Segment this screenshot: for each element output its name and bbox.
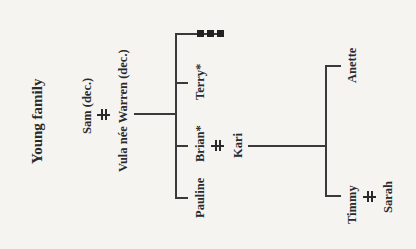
child-tick-pauline (175, 197, 188, 199)
person-timmy: Timmy (346, 185, 359, 224)
child-tick-timmy (325, 195, 341, 197)
child-tick-terry (175, 82, 188, 84)
sibling-bar-gen1 (175, 33, 177, 198)
marriage-symbol-sam-vula (97, 109, 111, 121)
child-tick-anette (325, 65, 341, 67)
person-anette: Anette (346, 48, 359, 83)
descendant-marker-square (207, 30, 214, 37)
family-tree-diagram: Young family Sam (dec.) Vula née Warren … (0, 0, 416, 249)
sibling-bar-gen2 (325, 65, 327, 196)
person-sarah: Sarah (382, 181, 395, 213)
person-terry: Terry* (194, 64, 207, 100)
descendant-marker-square (197, 30, 204, 37)
descent-line-brian-kari (248, 145, 326, 147)
marriage-symbol-timmy-sarah (363, 191, 377, 203)
marker-link (204, 33, 207, 35)
marker-link (214, 33, 217, 35)
person-brian: Brian* (194, 125, 207, 162)
person-pauline: Pauline (194, 178, 207, 218)
person-kari: Kari (232, 133, 245, 158)
marriage-symbol-brian-kari (211, 140, 225, 152)
terry-descendant-line (175, 33, 197, 35)
child-tick-brian (175, 145, 188, 147)
descendant-marker-square (217, 30, 224, 37)
diagram-title: Young family (30, 79, 45, 164)
person-vula: Vula née Warren (dec.) (117, 49, 130, 172)
descent-line-sam-vula (134, 113, 176, 115)
person-sam: Sam (dec.) (81, 78, 94, 134)
